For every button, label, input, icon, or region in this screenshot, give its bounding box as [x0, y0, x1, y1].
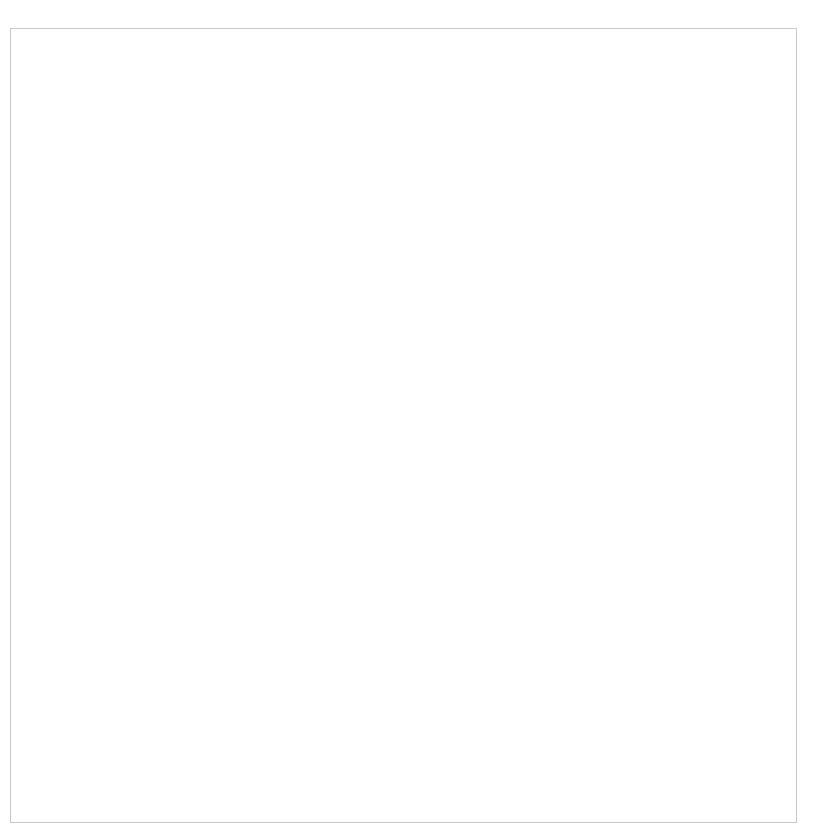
y-axis-ticks-percent: [57, 29, 101, 839]
x-axis-category-labels: [106, 421, 797, 437]
plot-area-absolute: [106, 82, 797, 414]
bar-series-absolute: [106, 82, 797, 414]
bar-series-percent: [106, 454, 797, 792]
plot-area-percent: [106, 454, 797, 792]
chart-frame: [10, 28, 797, 823]
clipped-chart-title: [0, 0, 815, 14]
